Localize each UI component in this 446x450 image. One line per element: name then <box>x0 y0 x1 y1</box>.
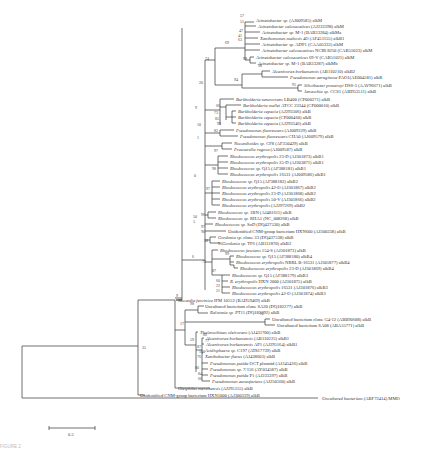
taxon-label: Uncultured bacterium SA08 (ABA55771) alk… <box>277 323 364 328</box>
bootstrap-value: 74 <box>205 57 209 61</box>
taxon-label: Xanthobacter flavus (AJ438603) alkB <box>205 354 275 359</box>
taxon-label: Acinetobacter calcoaceticus NCIB 8250 (C… <box>262 48 372 53</box>
taxon-label: Rhodococcus sp. Q15 (AF388181) alkB1 <box>230 166 306 171</box>
bootstrap-value: 5 <box>193 220 195 224</box>
taxon-label: Rhodococcus erythropolis 42-O (AJ301874)… <box>232 291 326 296</box>
scale-bar-label: 0.5 <box>68 432 74 437</box>
taxon-label: Pseudomonas fluorescens CHA0 (AJ009579) … <box>240 134 334 139</box>
bootstrap-value: 99 <box>243 57 247 61</box>
taxon-label: Gordonia sp. clone 33 (DQ437538) alkB <box>218 235 293 240</box>
taxon-label: Pseudomonas putida OCT plasmid (AJ245436… <box>210 361 307 366</box>
bootstrap-value: 99 <box>217 122 221 126</box>
taxon-label: Gordonia sp. TF6 (AB112870) alkB2 <box>222 241 291 246</box>
taxon-label: Pseudomonas fluorescens (AJ009329) alkB <box>236 128 316 133</box>
bootstrap-value: 97 <box>206 187 210 191</box>
taxon-label: Alcanivorax borkumensis AP1 (AJ295164) a… <box>206 342 297 347</box>
bootstrap-value: 98 <box>190 302 194 306</box>
bootstrap-value: 98 <box>212 167 216 171</box>
taxon-label: Thalassolituus oleivorans (AJ431700) alk… <box>200 330 280 335</box>
taxon-label: Uncultured bacterium clone G4-12 (ABB906… <box>272 317 371 322</box>
bootstrap-value: 94 <box>234 78 238 82</box>
taxon-label: Acinetobacter sp. ADP1 (CAA05333) alkM <box>262 42 343 47</box>
taxon-label: Rhodococcus sp. RHA1 (NC_008268) alkB <box>218 216 299 221</box>
taxon-label: Rhodococcus fascians 154-S (AJ301873) al… <box>220 248 306 253</box>
taxon-label: Rhodococcus sp. Q15 (AF388179) alkB3 <box>232 273 308 278</box>
bootstrap-value: 10 <box>197 123 201 127</box>
taxon-label: Xanthomonas maltosis 4O (AF451155) alkB1 <box>260 36 344 41</box>
bootstrap-value: 72 <box>202 260 206 264</box>
bootstrap-value: 86 <box>203 333 207 337</box>
bootstrap-value: 59 <box>190 338 194 342</box>
taxon-label: Alcanivorax borkumensis (AB110210) alkB2 <box>272 69 355 74</box>
taxon-label: Pseudomonas aureofaciens (AJ250560) alkB <box>212 379 295 384</box>
taxon-label: Acinetobacter calcoaceticus 69-V (CAB510… <box>256 55 354 60</box>
taxon-label: Acinetobacter calcoaceticus (AJ233398) a… <box>258 24 344 29</box>
bootstrap-value: 35 <box>142 346 146 350</box>
taxon-label: Burkholderia cepacia (CP000460) alkB <box>238 115 311 120</box>
bootstrap-value: 95 <box>292 83 296 87</box>
outgroup-label: Uncultured bacterium (ABF72414) MMO <box>322 396 400 401</box>
taxon-label: Acidisphaera sp. C197 (AT817739) alkB <box>205 348 280 353</box>
taxon-label: Rhodococcus erythropolis (AJ297269) alkB… <box>222 203 305 208</box>
taxon-label: Rhodococcus erythropolis 23-D (AJ301869)… <box>240 266 334 271</box>
bootstrap-value: 1 <box>197 136 199 140</box>
bootstrap-value: 90 <box>201 230 205 234</box>
taxon-label: Prauserella rugosa (AJ009587) alkB <box>234 147 302 152</box>
taxon-label: Rhodococcus erythropolis 35-D (AJ303871)… <box>230 160 324 165</box>
bootstrap-value: 99 <box>225 252 229 256</box>
taxon-label: Burkholderia xenovorans LB400 (CP000271)… <box>236 97 330 102</box>
bootstrap-value: 0 <box>194 174 196 178</box>
bootstrap-value: 51 <box>240 20 244 24</box>
taxon-label: Rhodococcus sp. Q15 (AF388180) alkB4 <box>236 254 312 259</box>
bootstrap-value: 63 <box>238 38 242 42</box>
taxon-label: Ralstonia sp. PT11 (DQ182292) alkB <box>210 310 279 315</box>
bootstrap-value: 87 <box>212 269 216 273</box>
taxon-label: Rhodococcus erythropolis 23-D (AJ301873)… <box>230 154 324 159</box>
scale-bar <box>49 426 95 430</box>
outgroup-name: Uncultured bacterium <box>322 396 363 401</box>
taxon-label: Acinetobacter sp. (AJ009585) alkM <box>256 18 322 23</box>
taxon-label: Rhodococcus erythropolis 16531 (AJ301876… <box>232 285 328 290</box>
bootstrap-value: 17 <box>180 322 184 326</box>
taxon-label: Pseudomonas putida P1 (AJ233397) alkB <box>210 373 287 378</box>
bootstrap-value: 96 <box>201 213 205 217</box>
bootstrap-value: 9 <box>176 294 178 298</box>
taxon-label: Uncultured bacterium clone SA20 (DQ18227… <box>205 304 302 309</box>
bootstrap-value: 58 <box>204 239 208 243</box>
taxon-label: Nocardioides sp. CF8 (AF350429) alkB <box>234 141 308 146</box>
taxon-label: Rhodococcus sp. SoD (DQ437530) alkB <box>215 222 290 227</box>
taxon-label: R. erythropolis HXN 2000 (AJ301875) alkB <box>230 279 312 284</box>
taxon-label: Rhodococcus erythropolis 50-V (AJ301866)… <box>222 197 316 202</box>
taxon-label: Unidentified CNM-group bacterium HXN1000… <box>140 393 260 398</box>
bootstrap-value: 82 <box>214 129 218 133</box>
taxon-label: Pseudomonas sp. 7/156 (AY034587) alkB <box>210 367 288 372</box>
taxon-label: Acinetobacter sp. M-1 (BAB33287) alkMb <box>258 61 338 66</box>
taxon-label: Rhodococcus erythropolis 16531 (AJ009586… <box>230 172 326 177</box>
bootstrap-value: 20 <box>199 81 203 85</box>
bootstrap-value: 73 <box>214 111 218 115</box>
taxon-label: Burkholderia mallei ATCC 23344 (CP000010… <box>243 103 339 108</box>
taxon-label: Burkholderia cepacia (AJ293306) alkB <box>238 109 311 114</box>
bootstrap-value: 92 <box>260 312 264 316</box>
figure-caption: FIGURE 2 <box>0 444 21 449</box>
taxon-label: Rhodococcus sp. 1BN (AJ401611) alkB <box>218 210 291 215</box>
taxon-label: Janaschia sp. CCS1 (ABD53511) alkB <box>304 89 376 94</box>
taxon-label: Acinetobacter sp. M-1 (BAB33284) alkMa <box>262 30 341 35</box>
bootstrap-value: 66 <box>198 377 202 381</box>
bootstrap-value: 57 <box>240 14 244 18</box>
bootstrap-value: 97 <box>214 149 218 153</box>
bootstrap-value: 9 <box>195 106 197 110</box>
taxon-label: Unidentified CNM-group bacterium HXN600 … <box>228 229 346 234</box>
taxon-label: Alcanivorax borkumensis (AB110225) alkB1 <box>206 336 289 341</box>
taxon-label: Burkholderia cepacia (AJ293346) alkB <box>238 121 311 126</box>
taxon-label: Rhodococcus sp. Q15 (AF388182) alkB2 <box>222 179 298 184</box>
bootstrap-value: 76 <box>197 355 201 359</box>
taxon-label: Rhodococcus erythropolis NRRL B-16531 (A… <box>236 260 350 265</box>
bootstrap-value: 66 <box>216 104 220 108</box>
outgroup-accession: (ABF72414) MMO <box>364 396 400 401</box>
taxon-label: Oleiphilus messinensis (AJ295155) alkB <box>178 386 253 391</box>
bootstrap-value: 21 <box>216 289 220 293</box>
taxon-label: Rhodococcus erythropolis 42-O (AJ301867)… <box>222 185 316 190</box>
bootstrap-value: 6 <box>192 255 194 259</box>
bootstrap-value: 77 <box>205 339 209 343</box>
